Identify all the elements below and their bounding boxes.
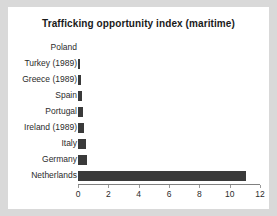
bar-track: [78, 72, 260, 88]
x-tick: [78, 185, 79, 188]
bar-row: Poland: [8, 40, 269, 56]
category-label: Ireland (1989): [8, 122, 77, 132]
x-tick: [260, 185, 261, 188]
bar-track: [78, 136, 260, 152]
category-label: Netherlands: [8, 170, 77, 180]
x-tick-label: 8: [189, 189, 209, 199]
bar-row: Italy: [8, 136, 269, 152]
x-tick-label: 6: [159, 189, 179, 199]
category-label: Spain: [8, 90, 77, 100]
x-axis-tick-labels: 024681012: [78, 189, 260, 201]
bar: [78, 75, 81, 85]
bar-track: [78, 104, 260, 120]
bar-row: Portugal: [8, 104, 269, 120]
plot-area: PolandTurkey (1989)Greece (1989)SpainPor…: [8, 40, 269, 200]
category-label: Poland: [8, 42, 77, 52]
bar: [78, 139, 86, 149]
category-label: Germany: [8, 154, 77, 164]
category-label: Italy: [8, 138, 77, 148]
x-tick-label: 2: [98, 189, 118, 199]
x-tick-label: 4: [129, 189, 149, 199]
bar: [78, 107, 83, 117]
x-tick-label: 12: [250, 189, 270, 199]
bar-track: [78, 56, 260, 72]
bar-track: [78, 88, 260, 104]
category-label: Greece (1989): [8, 74, 77, 84]
bar-row: Germany: [8, 152, 269, 168]
bar-row: Spain: [8, 88, 269, 104]
bar: [78, 123, 84, 133]
bar: [78, 171, 246, 181]
bar-row: Ireland (1989): [8, 120, 269, 136]
bar-row: Turkey (1989): [8, 56, 269, 72]
bar-track: [78, 168, 260, 184]
category-label: Portugal: [8, 106, 77, 116]
x-tick-label: 0: [68, 189, 88, 199]
x-axis: 024681012: [8, 184, 269, 206]
x-tick: [230, 185, 231, 188]
x-tick: [169, 185, 170, 188]
bar-row: Netherlands: [8, 168, 269, 184]
x-tick: [108, 185, 109, 188]
bar-track: [78, 152, 260, 168]
bar: [78, 91, 82, 101]
x-tick-label: 10: [220, 189, 240, 199]
bar: [78, 155, 87, 165]
bar-row: Greece (1989): [8, 72, 269, 88]
bar: [78, 59, 80, 69]
bar-track: [78, 40, 260, 56]
bar-track: [78, 120, 260, 136]
chart-panel: Trafficking opportunity index (maritime)…: [8, 7, 269, 209]
x-tick: [139, 185, 140, 188]
chart-title: Trafficking opportunity index (maritime): [8, 18, 269, 29]
category-label: Turkey (1989): [8, 58, 77, 68]
x-tick: [199, 185, 200, 188]
